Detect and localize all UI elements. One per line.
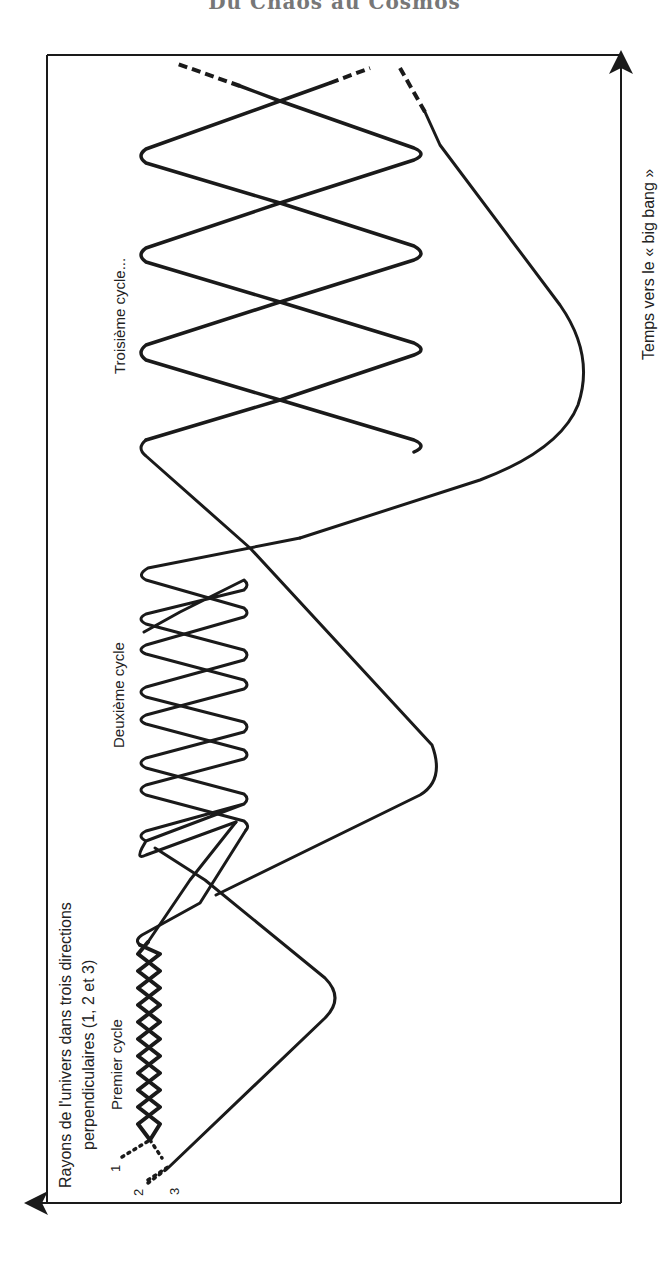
frame [47,55,621,1203]
curve-third-cycle-a [141,86,421,440]
curve-3-first-loop [155,848,335,1168]
cycle-label-third: Troisième cycle... [111,258,128,374]
curve-3-dashed-end [400,68,425,112]
curve-1-third-loop [300,112,584,538]
curve-1-second-cycle [141,538,300,830]
curve-2-transition-1-2 [148,822,236,942]
curve-1-dotted-start [122,1140,150,1157]
curve-3-dotted-start [148,1168,168,1183]
cycle-label-second: Deuxième cycle [110,642,127,748]
curve-third-cycle-b-dashed [330,68,370,83]
cycle-label-first: Premier cycle [108,1019,125,1110]
curve-label-2: 2 [131,1189,146,1196]
cosmic-cycles-diagram [0,0,669,1266]
time-axis-label: Temps vers le « big bang » [640,169,657,360]
curve-label-1: 1 [108,1165,123,1172]
curve-third-cycle-a-dashed [178,64,240,86]
radius-axis-label-line1: Rayons de l'univers dans trois direction… [57,902,74,1188]
curve-third-cycle-b [141,83,421,452]
radius-axis-label-line2: perpendiculaires (1, 2 et 3) [80,960,97,1150]
curve-label-3: 3 [167,1188,182,1195]
